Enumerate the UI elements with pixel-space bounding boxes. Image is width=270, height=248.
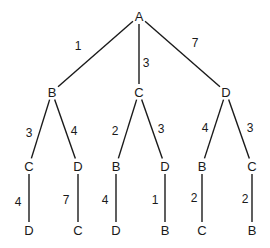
tree-node-label: C (24, 159, 33, 174)
edge-weight-label: 7 (192, 36, 199, 50)
tree-node-label: B (198, 159, 207, 174)
edge-weight-label: 4 (15, 195, 22, 209)
edge-weight-label: 4 (71, 124, 78, 138)
tree-node-label: D (160, 159, 169, 174)
edge-weight-labels: 137342343474122 (15, 36, 254, 209)
edge-weight-label: 2 (242, 192, 249, 206)
tree-node-label: C (134, 85, 143, 100)
weighted-tree-diagram: 137342343474122 ABCDCDBDBCDCDBCB (0, 0, 270, 248)
tree-edge (118, 100, 136, 159)
edge-weight-label: 2 (112, 124, 119, 138)
tree-node-label: D (111, 223, 120, 238)
edge-weight-label: 3 (158, 122, 165, 136)
tree-node-label: B (248, 223, 257, 238)
edge-weight-label: 3 (26, 126, 33, 140)
edge-weight-label: 2 (191, 191, 198, 205)
tree-edge (145, 21, 220, 86)
tree-edges (29, 21, 252, 222)
tree-node-label: B (112, 159, 121, 174)
edge-weight-label: 1 (152, 193, 159, 207)
tree-edge (58, 21, 133, 86)
edge-weight-label: 4 (102, 193, 109, 207)
tree-node-label: B (161, 223, 170, 238)
tree-node-label: A (135, 9, 144, 24)
tree-node-label: B (48, 85, 57, 100)
edge-weight-label: 4 (202, 121, 209, 135)
tree-node-label: C (247, 159, 256, 174)
edge-weight-label: 3 (143, 56, 150, 70)
edge-weight-label: 3 (247, 121, 254, 135)
tree-node-label: C (197, 223, 206, 238)
tree-node-label: D (24, 223, 33, 238)
tree-node-label: C (73, 223, 82, 238)
tree-nodes: ABCDCDBDBCDCDBCB (24, 9, 256, 238)
edge-weight-label: 1 (75, 39, 82, 53)
edge-weight-label: 7 (63, 193, 70, 207)
tree-node-label: D (221, 85, 230, 100)
tree-edge (31, 100, 49, 159)
tree-node-label: D (73, 159, 82, 174)
